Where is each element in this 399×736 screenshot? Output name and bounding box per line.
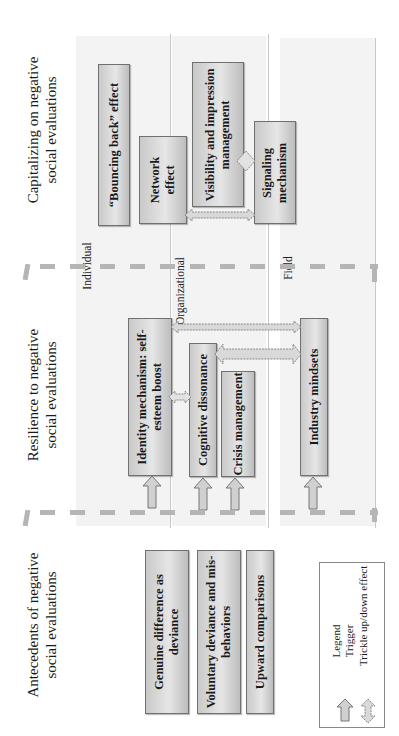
box-voluntary-deviance: Voluntary deviance and mis- behaviors	[197, 550, 241, 714]
legend-title: Legend	[330, 625, 342, 658]
section-title-antecedents: Antecedents of negative social evaluatio…	[22, 555, 62, 695]
box-network-effect: Network effect	[139, 136, 187, 224]
box-genuine-difference: Genuine difference as deviance	[145, 550, 189, 714]
dashed-boundary	[23, 264, 31, 281]
trickle-arrow-icon	[170, 320, 302, 334]
trickle-arrow-icon	[235, 150, 257, 172]
trigger-arrow-icon	[193, 477, 213, 511]
legend-trigger-label: Trigger	[343, 625, 355, 658]
box-signaling-mechanism: Signaling mechanism	[254, 121, 296, 224]
box-visibility-impression: Visibility and impression management	[192, 62, 244, 207]
section-title-capitalizing: Capitalizing on negative social evaluati…	[22, 60, 62, 200]
legend: Legend Trigger Trickle up/down effect	[319, 562, 385, 728]
legend-trickle-arrow-icon	[360, 698, 376, 724]
trigger-arrow-icon	[225, 477, 245, 511]
dashed-boundary	[40, 510, 378, 515]
dashed-boundary	[23, 510, 31, 527]
trigger-arrow-icon	[142, 475, 162, 509]
divider-line	[268, 34, 269, 528]
dashed-boundary	[372, 268, 377, 282]
trigger-arrow-icon	[303, 476, 323, 510]
legend-trigger-arrow-icon	[336, 698, 354, 722]
box-identity-mechanism: Identity mechanism: self- esteem boost	[128, 318, 172, 476]
box-cognitive-dissonance: Cognitive dissonance	[189, 343, 217, 477]
trickle-arrow-icon	[168, 390, 192, 404]
dashed-boundary	[40, 264, 378, 269]
trickle-arrow-icon	[214, 343, 302, 365]
box-upward-comparisons: Upward comparisons	[246, 550, 274, 714]
legend-trickle-label: Trickle up/down effect	[357, 566, 369, 666]
dashed-boundary	[372, 508, 377, 522]
trickle-arrow-icon	[184, 208, 256, 222]
divider-line	[375, 38, 376, 528]
box-crisis-management: Crisis management	[221, 371, 255, 477]
box-industry-mindsets: Industry mindsets	[300, 318, 328, 476]
section-title-resilience: Resilience to negative social evaluation…	[22, 330, 62, 460]
box-bouncing-back: “Bouncing back” effect	[98, 64, 130, 226]
